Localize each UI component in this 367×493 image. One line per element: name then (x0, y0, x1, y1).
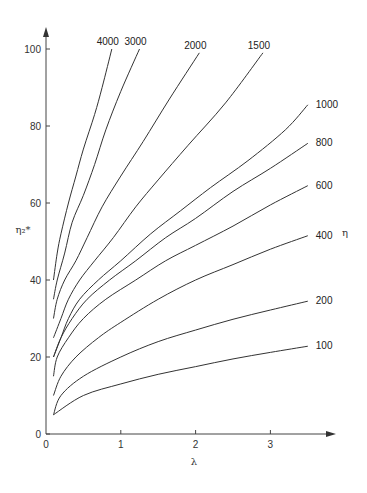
right-axis-title: η (342, 227, 348, 238)
curve-eta-4000 (53, 49, 111, 280)
curve-label-100: 100 (316, 340, 333, 351)
curve-label-1500: 1500 (248, 40, 271, 51)
x-axis-title: λ (191, 456, 198, 467)
y-tick-label: 100 (24, 44, 41, 55)
curve-label-2000: 2000 (184, 40, 207, 51)
x-tick-label: 0 (43, 439, 49, 450)
curve-eta-1500 (53, 53, 262, 338)
y-tick-label: 40 (30, 275, 42, 286)
y-tick-label: 60 (30, 198, 42, 209)
curve-eta-3000 (53, 49, 139, 299)
curves (53, 49, 307, 415)
axes: 0123020406080100 (24, 27, 336, 450)
curve-labels: 10020040060080010001500200030004000 (97, 36, 339, 351)
curve-label-800: 800 (316, 137, 333, 148)
curve-label-3000: 3000 (124, 36, 147, 47)
x-tick-label: 2 (193, 439, 199, 450)
y-axis-title: η₂* (16, 224, 31, 235)
y-tick-label: 80 (30, 121, 42, 132)
curve-label-200: 200 (316, 295, 333, 306)
curve-eta-600 (53, 186, 307, 377)
y-axis-arrow-icon (43, 27, 49, 37)
line-chart: 0123020406080100 10020040060080010001500… (0, 0, 367, 493)
curve-label-4000: 4000 (97, 36, 120, 47)
x-axis-arrow-icon (326, 431, 336, 437)
curve-eta-200 (53, 301, 307, 415)
curve-label-1000: 1000 (316, 99, 339, 110)
curve-eta-1000 (53, 105, 307, 357)
x-tick-label: 3 (268, 439, 274, 450)
x-tick-label: 1 (118, 439, 124, 450)
curve-label-600: 600 (316, 180, 333, 191)
curve-eta-100 (53, 346, 307, 415)
y-tick-label: 20 (30, 352, 42, 363)
curve-eta-2000 (53, 53, 199, 319)
curve-label-400: 400 (316, 230, 333, 241)
y-tick-label: 0 (35, 429, 41, 440)
curve-eta-800 (53, 143, 307, 357)
